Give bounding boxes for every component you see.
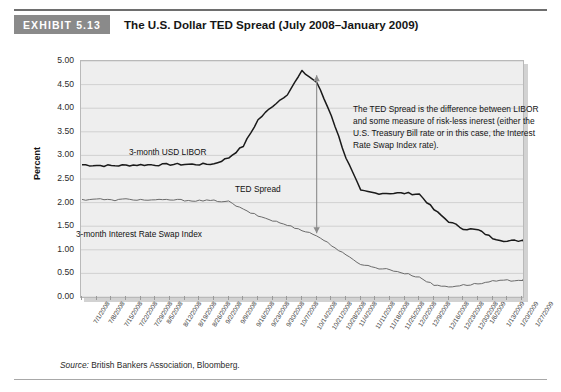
x-tick-mark	[345, 296, 346, 300]
source-prefix: Source:	[60, 360, 89, 370]
x-tick-mark	[330, 296, 331, 300]
x-tick-mark	[404, 296, 405, 300]
y-axis: Percent 0.000.501.001.502.002.503.003.50…	[36, 60, 74, 298]
x-tick-mark	[272, 296, 273, 300]
chart-canvas	[81, 61, 523, 297]
x-tick-mark	[418, 296, 419, 300]
x-tick-mark	[169, 296, 170, 300]
x-tick-mark	[140, 296, 141, 300]
x-tick-mark	[433, 296, 434, 300]
exhibit-page: EXHIBIT 5.13 The U.S. Dollar TED Spread …	[0, 0, 561, 392]
plot-area	[80, 60, 524, 298]
x-tick-mark	[257, 296, 258, 300]
x-axis-labels: 7/1/20087/8/20087/15/20087/22/20087/29/2…	[80, 300, 524, 346]
libor-series-label: 3-month USD LIBOR	[129, 147, 206, 157]
ted-spread-arrow	[313, 75, 319, 233]
x-tick-mark	[301, 296, 302, 300]
exhibit-header: EXHIBIT 5.13 The U.S. Dollar TED Spread …	[14, 15, 418, 34]
plot-wrapper: Percent 0.000.501.001.502.002.503.003.50…	[14, 41, 547, 349]
x-tick-mark	[360, 296, 361, 300]
y-tick-label: 3.00	[40, 150, 74, 159]
x-tick-mark	[242, 296, 243, 300]
x-tick-mark	[184, 296, 185, 300]
x-tick-mark	[374, 296, 375, 300]
y-tick-label: 0.00	[40, 292, 74, 301]
ted-spread-label: TED Spread	[235, 184, 281, 194]
chart-frame: Percent 0.000.501.001.502.002.503.003.50…	[14, 41, 547, 349]
bottom-divider	[14, 379, 547, 380]
exhibit-badge: EXHIBIT 5.13	[14, 15, 110, 34]
x-tick-mark	[198, 296, 199, 300]
x-tick-mark	[389, 296, 390, 300]
x-tick-mark	[316, 296, 317, 300]
source-line: Source: British Bankers Association, Blo…	[60, 360, 240, 370]
x-tick-mark	[477, 296, 478, 300]
source-text: British Bankers Association, Bloomberg.	[91, 360, 240, 370]
page-title: The U.S. Dollar TED Spread (July 2008–Ja…	[124, 15, 418, 34]
x-tick-mark	[521, 296, 522, 300]
x-tick-mark	[506, 296, 507, 300]
y-tick-label: 0.50	[40, 268, 74, 277]
x-tick-mark	[96, 296, 97, 300]
x-tick-mark	[125, 296, 126, 300]
y-tick-label: 2.00	[40, 198, 74, 207]
y-tick-label: 4.00	[40, 103, 74, 112]
x-tick-mark	[228, 296, 229, 300]
swap-series-label: 3-month Interest Rate Swap Index	[76, 229, 202, 239]
x-tick-mark	[81, 296, 82, 300]
y-tick-label: 3.50	[40, 127, 74, 136]
x-tick-mark	[154, 296, 155, 300]
y-tick-label: 5.00	[40, 56, 74, 65]
ted-spread-definition: The TED Spread is the difference between…	[353, 104, 543, 152]
x-tick-mark	[492, 296, 493, 300]
x-tick-mark	[462, 296, 463, 300]
y-tick-label: 1.00	[40, 245, 74, 254]
top-divider	[14, 9, 547, 11]
y-tick-label: 2.50	[40, 174, 74, 183]
x-tick-mark	[213, 296, 214, 300]
x-tick-mark	[448, 296, 449, 300]
y-tick-label: 4.50	[40, 80, 74, 89]
x-tick-mark	[110, 296, 111, 300]
x-tick-mark	[286, 296, 287, 300]
y-tick-label: 1.50	[40, 221, 74, 230]
